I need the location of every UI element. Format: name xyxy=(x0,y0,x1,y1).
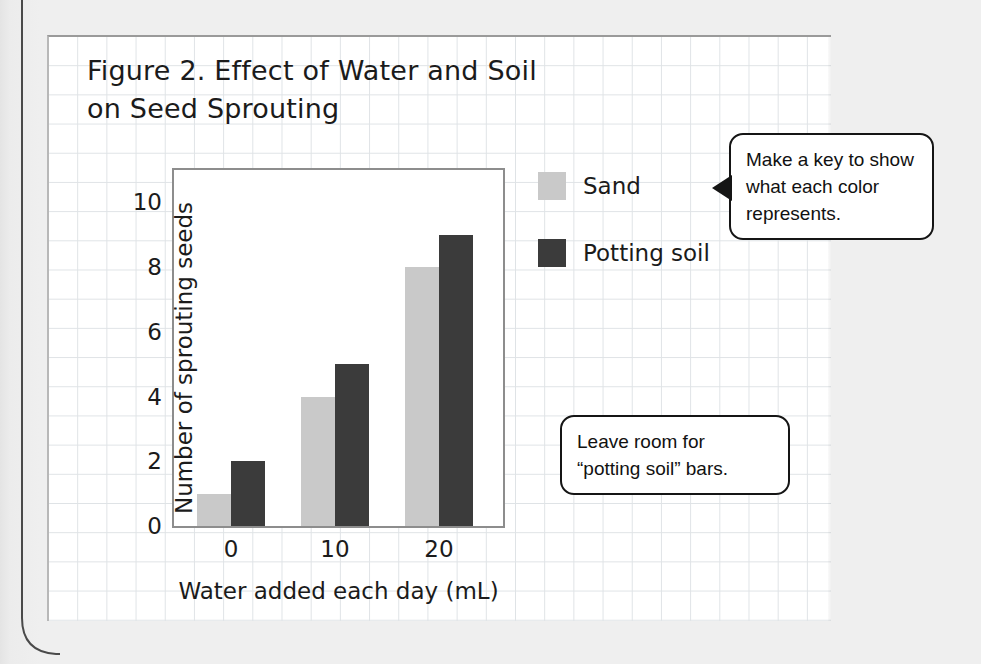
callout-text: Leave room for “potting soil” bars. xyxy=(577,431,728,479)
bar-sand xyxy=(301,397,335,526)
y-tick-label: 4 xyxy=(147,384,162,410)
callout-make-a-key: Make a key to show what each color repre… xyxy=(729,133,934,240)
callout-text: Make a key to show what each color repre… xyxy=(746,149,914,224)
legend-label: Potting soil xyxy=(583,240,710,266)
x-tick-label: 10 xyxy=(320,536,349,562)
bar-potting-soil xyxy=(231,461,265,526)
notebook-page: Figure 2. Effect of Water and Soil on Se… xyxy=(0,0,981,664)
y-axis-title: Number of sprouting seeds xyxy=(171,78,197,638)
y-tick-label: 2 xyxy=(147,448,162,474)
y-tick-label: 10 xyxy=(133,189,162,215)
y-tick-label: 6 xyxy=(147,319,162,345)
x-tick-label: 0 xyxy=(224,536,239,562)
bar-sand xyxy=(405,267,439,526)
bar-potting-soil xyxy=(335,364,369,526)
legend-label: Sand xyxy=(583,173,641,199)
paper-right-shade xyxy=(828,37,831,621)
x-axis-title: Water added each day (mL) xyxy=(178,578,498,604)
plot-inner: Number of sprouting seeds 0 2 4 6 8 10 0… xyxy=(174,170,503,526)
legend-swatch-potting-soil-icon xyxy=(538,239,566,267)
bar-sand xyxy=(197,494,231,526)
bar-potting-soil xyxy=(439,235,473,526)
callout-leave-room: Leave room for “potting soil” bars. xyxy=(560,415,790,495)
callout-arrow-icon xyxy=(712,175,732,201)
plot-area: Number of sprouting seeds 0 2 4 6 8 10 0… xyxy=(172,168,505,528)
legend-swatch-sand-icon xyxy=(538,172,566,200)
y-tick-label: 8 xyxy=(147,254,162,280)
figure-title: Figure 2. Effect of Water and Soil on Se… xyxy=(87,52,557,128)
y-tick-label: 0 xyxy=(147,513,162,539)
x-tick-label: 20 xyxy=(424,536,453,562)
